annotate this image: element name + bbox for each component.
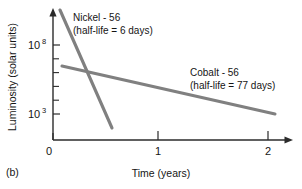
y-tick-label-1e8-exponent: 8 bbox=[42, 37, 46, 46]
y-tick-label-1e8-base: 10 bbox=[28, 39, 40, 51]
y-tick-label-1e3-exponent: 3 bbox=[42, 106, 46, 115]
y-axis-arrowhead bbox=[49, 8, 56, 17]
y-axis bbox=[49, 8, 56, 140]
x-axis-title: Time (years) bbox=[132, 167, 191, 179]
annotation-nickel-56-halflife: (half-life = 6 days) bbox=[73, 25, 153, 36]
x-tick-label-2: 2 bbox=[265, 145, 271, 157]
x-axis-arrowhead bbox=[285, 136, 294, 143]
y-tick-labels: 10 8 10 3 bbox=[28, 37, 46, 121]
x-tick-labels: 0 1 2 bbox=[46, 145, 271, 157]
y-axis-ticks bbox=[53, 45, 60, 114]
annotation-cobalt-56-name: Cobalt - 56 bbox=[190, 67, 239, 78]
figure-container: 10 8 10 3 0 1 2 Luminosity (solar units)… bbox=[0, 0, 302, 189]
annotation-nickel-56-name: Nickel - 56 bbox=[73, 12, 121, 23]
y-axis-title: Luminosity (solar units) bbox=[6, 23, 18, 131]
x-tick-label-1: 1 bbox=[155, 145, 161, 157]
luminosity-decay-chart: 10 8 10 3 0 1 2 Luminosity (solar units)… bbox=[0, 0, 302, 189]
annotation-nickel-56: Nickel - 56 (half-life = 6 days) bbox=[73, 12, 153, 36]
x-axis-ticks bbox=[53, 131, 268, 140]
figure-caption: (b) bbox=[6, 166, 19, 178]
y-tick-label-1e3-base: 10 bbox=[28, 108, 40, 120]
annotation-cobalt-56: Cobalt - 56 (half-life = 77 days) bbox=[190, 67, 275, 91]
annotation-cobalt-56-halflife: (half-life = 77 days) bbox=[190, 80, 275, 91]
x-axis bbox=[53, 136, 293, 143]
x-tick-label-0: 0 bbox=[46, 145, 52, 157]
